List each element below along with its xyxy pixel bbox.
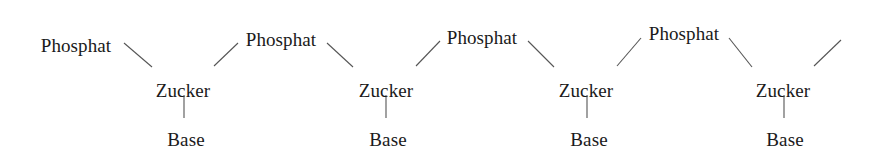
node-label-base-2: Base [369, 130, 406, 149]
bond-p3-z3 [528, 41, 554, 67]
bond-p1-z1 [124, 43, 152, 67]
bond-z4-open [814, 40, 841, 66]
bond-z1-p2 [214, 43, 238, 66]
bond-p4-z4 [729, 38, 752, 67]
node-label-phosphat-1: Phosphat [41, 36, 111, 55]
node-label-base-1: Base [167, 130, 204, 149]
dna-backbone-diagram: PhosphatZuckerBasePhosphatZuckerBasePhos… [0, 0, 872, 149]
bond-z2-p3 [416, 41, 440, 66]
node-label-phosphat-3: Phosphat [447, 28, 517, 47]
node-label-zucker-1: Zucker [156, 81, 210, 100]
node-label-zucker-2: Zucker [359, 81, 413, 100]
bond-layer [0, 0, 872, 149]
bond-p2-z2 [327, 43, 353, 67]
node-label-base-3: Base [570, 130, 607, 149]
bond-z3-p4 [617, 38, 641, 66]
node-label-base-4: Base [766, 130, 803, 149]
node-label-phosphat-2: Phosphat [246, 30, 316, 49]
node-label-zucker-4: Zucker [756, 81, 810, 100]
node-label-zucker-3: Zucker [559, 81, 613, 100]
node-label-phosphat-4: Phosphat [649, 24, 719, 43]
